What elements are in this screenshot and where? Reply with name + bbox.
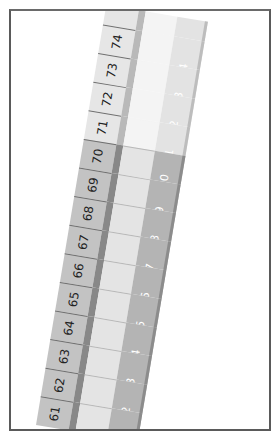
figure-frame: 74 4 73 3 72 2 71 1 70 10 (9, 9, 271, 431)
hundred-chart-cell: 61 (36, 396, 73, 430)
blank-cell (75, 403, 111, 431)
ruler-cell: 1 (107, 408, 142, 431)
number-strip: 74 4 73 3 72 2 71 1 70 10 (37, 9, 211, 431)
